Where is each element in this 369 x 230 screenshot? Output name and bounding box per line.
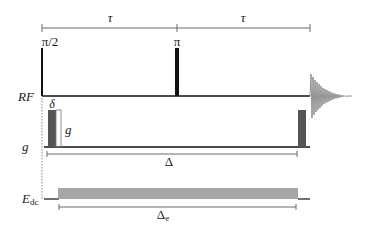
tau-label-second: τ: [241, 10, 247, 25]
delta-label: Δ: [165, 154, 173, 169]
gradient-amplitude-outline: [56, 110, 61, 147]
pulse-180-label: π: [174, 34, 181, 49]
delta-e-bracket: [59, 204, 296, 210]
rf-channel-label: RF: [17, 89, 35, 104]
pulse-sequence-diagram: τ τ RF π/2 π g δ g Δ Edc Δe: [0, 0, 369, 230]
tau-label-first: τ: [108, 10, 114, 25]
gradient-delta-label: δ: [49, 97, 55, 111]
gradient-amplitude-label: g: [65, 122, 72, 137]
delta-e-subscript: e: [165, 213, 169, 223]
edc-field-block: [58, 188, 298, 199]
gradient-pulse-1: [48, 110, 56, 147]
delta-e-label: Δe: [157, 207, 169, 223]
pulse-90-label: π/2: [42, 34, 59, 49]
pulse-90: [41, 48, 43, 96]
gradient-channel-label: g: [22, 139, 29, 154]
fid-signal: [310, 74, 352, 118]
edc-channel-label: Edc: [21, 191, 38, 207]
edc-subscript: dc: [30, 197, 39, 207]
gradient-pulse-2: [298, 110, 306, 147]
tau-bracket: [42, 24, 310, 32]
pulse-180: [175, 48, 179, 96]
